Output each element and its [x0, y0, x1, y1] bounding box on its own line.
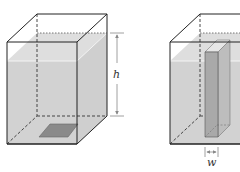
width-dimension: w — [205, 147, 218, 169]
height-label: h — [113, 68, 120, 81]
tank-left — [7, 14, 107, 144]
vertical-plate — [205, 40, 230, 137]
tank-right — [170, 14, 240, 144]
height-dimension: h — [110, 33, 124, 116]
width-label: w — [207, 156, 217, 169]
diagram-canvas: h w — [0, 0, 240, 172]
